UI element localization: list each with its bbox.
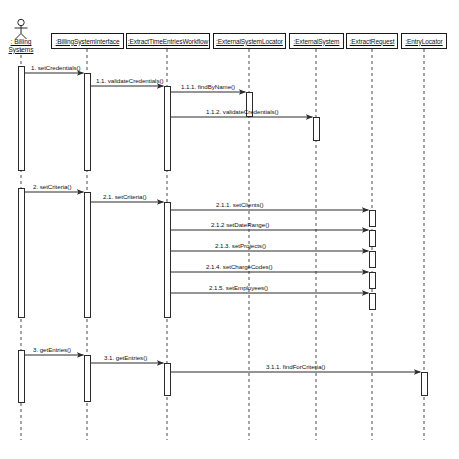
activation-bar-act-actor-2 bbox=[18, 188, 25, 318]
message-label-msg-2-1-3: 2.1.3. setProjects() bbox=[215, 242, 266, 249]
activation-bar-act-workflow-3 bbox=[164, 363, 171, 396]
activation-bar-act-entrylocator-1 bbox=[421, 372, 428, 396]
message-label-msg-2-1-4: 2.1.4. setChargeCodes() bbox=[206, 263, 273, 270]
actor-label-line2: Systems bbox=[0, 46, 51, 54]
message-label-msg-2-1-2: 2.1.2 setDateRange() bbox=[211, 221, 269, 228]
lifeline-label-external-system-locator: :ExternalSystemLocator bbox=[216, 38, 283, 45]
lifeline-label-extract-request: :ExtractRequest bbox=[350, 38, 395, 45]
message-label-msg-1-1-1: 1.1.1. findByName() bbox=[181, 83, 235, 90]
activation-bar-act-request-1 bbox=[369, 210, 376, 227]
actor-label: : BillingSystems bbox=[0, 38, 51, 53]
message-label-msg-3: 3. getEntries() bbox=[33, 346, 71, 353]
activation-bar-act-request-2 bbox=[369, 230, 376, 247]
actor-label-line1: : Billing bbox=[0, 38, 51, 46]
actor-stick-figure bbox=[15, 19, 28, 39]
lifeline-header-extract-time-entries-workflow[interactable]: :ExtractTimeEntriesWorkflow bbox=[126, 33, 210, 49]
activation-bar-act-interface-2 bbox=[84, 192, 91, 318]
activation-bar-act-actor-3 bbox=[18, 350, 25, 403]
lifeline-label-billing-system-interface: :BillingSystemInterface bbox=[56, 38, 120, 45]
activation-bar-act-interface-3 bbox=[84, 355, 91, 402]
activation-bar-act-workflow-2 bbox=[164, 202, 171, 318]
uml-sequence-diagram: : BillingSystems :BillingSystemInterface… bbox=[0, 0, 459, 459]
message-label-msg-3-1: 3.1. getEntries() bbox=[104, 354, 147, 361]
message-label-msg-2-1-5: 2.1.5. setEmployees() bbox=[209, 284, 268, 291]
activation-bar-act-external-1 bbox=[313, 117, 320, 141]
lifeline-header-external-system[interactable]: :ExternalSystem bbox=[289, 33, 344, 49]
lifeline-label-external-system: :ExternalSystem bbox=[294, 38, 340, 45]
activation-bar-act-interface-1 bbox=[84, 73, 91, 171]
message-label-msg-3-1-1: 3.1.1. findForCriteria() bbox=[266, 363, 325, 370]
message-label-msg-1: 1. setCredentials() bbox=[31, 64, 81, 71]
message-label-msg-2-1-1: 2.1.1. setClients() bbox=[216, 201, 264, 208]
message-label-msg-2-1: 2.1. setCriteria() bbox=[103, 193, 146, 200]
message-label-msg-2: 2. setCriteria() bbox=[33, 183, 71, 190]
lifeline-label-entry-locator: :EntryLocator bbox=[405, 38, 442, 45]
message-label-msg-1-1-2: 1.1.2. validateCredentials() bbox=[206, 108, 279, 115]
message-label-msg-1-1: 1.1. validateCredentials() bbox=[96, 77, 164, 84]
activation-bar-act-request-4 bbox=[369, 272, 376, 289]
activation-bar-act-request-5 bbox=[369, 293, 376, 310]
lifeline-header-entry-locator[interactable]: :EntryLocator bbox=[401, 33, 447, 49]
activation-bar-act-workflow-1 bbox=[164, 86, 171, 171]
lifeline-header-billing-system-interface[interactable]: :BillingSystemInterface bbox=[51, 33, 124, 49]
lifeline-label-extract-time-entries-workflow: :ExtractTimeEntriesWorkflow bbox=[128, 38, 208, 45]
activation-bar-act-request-3 bbox=[369, 251, 376, 268]
lifeline-header-extract-request[interactable]: :ExtractRequest bbox=[346, 33, 398, 49]
lifeline-header-external-system-locator[interactable]: :ExternalSystemLocator bbox=[213, 33, 286, 49]
activation-bar-act-actor-1 bbox=[18, 66, 25, 171]
